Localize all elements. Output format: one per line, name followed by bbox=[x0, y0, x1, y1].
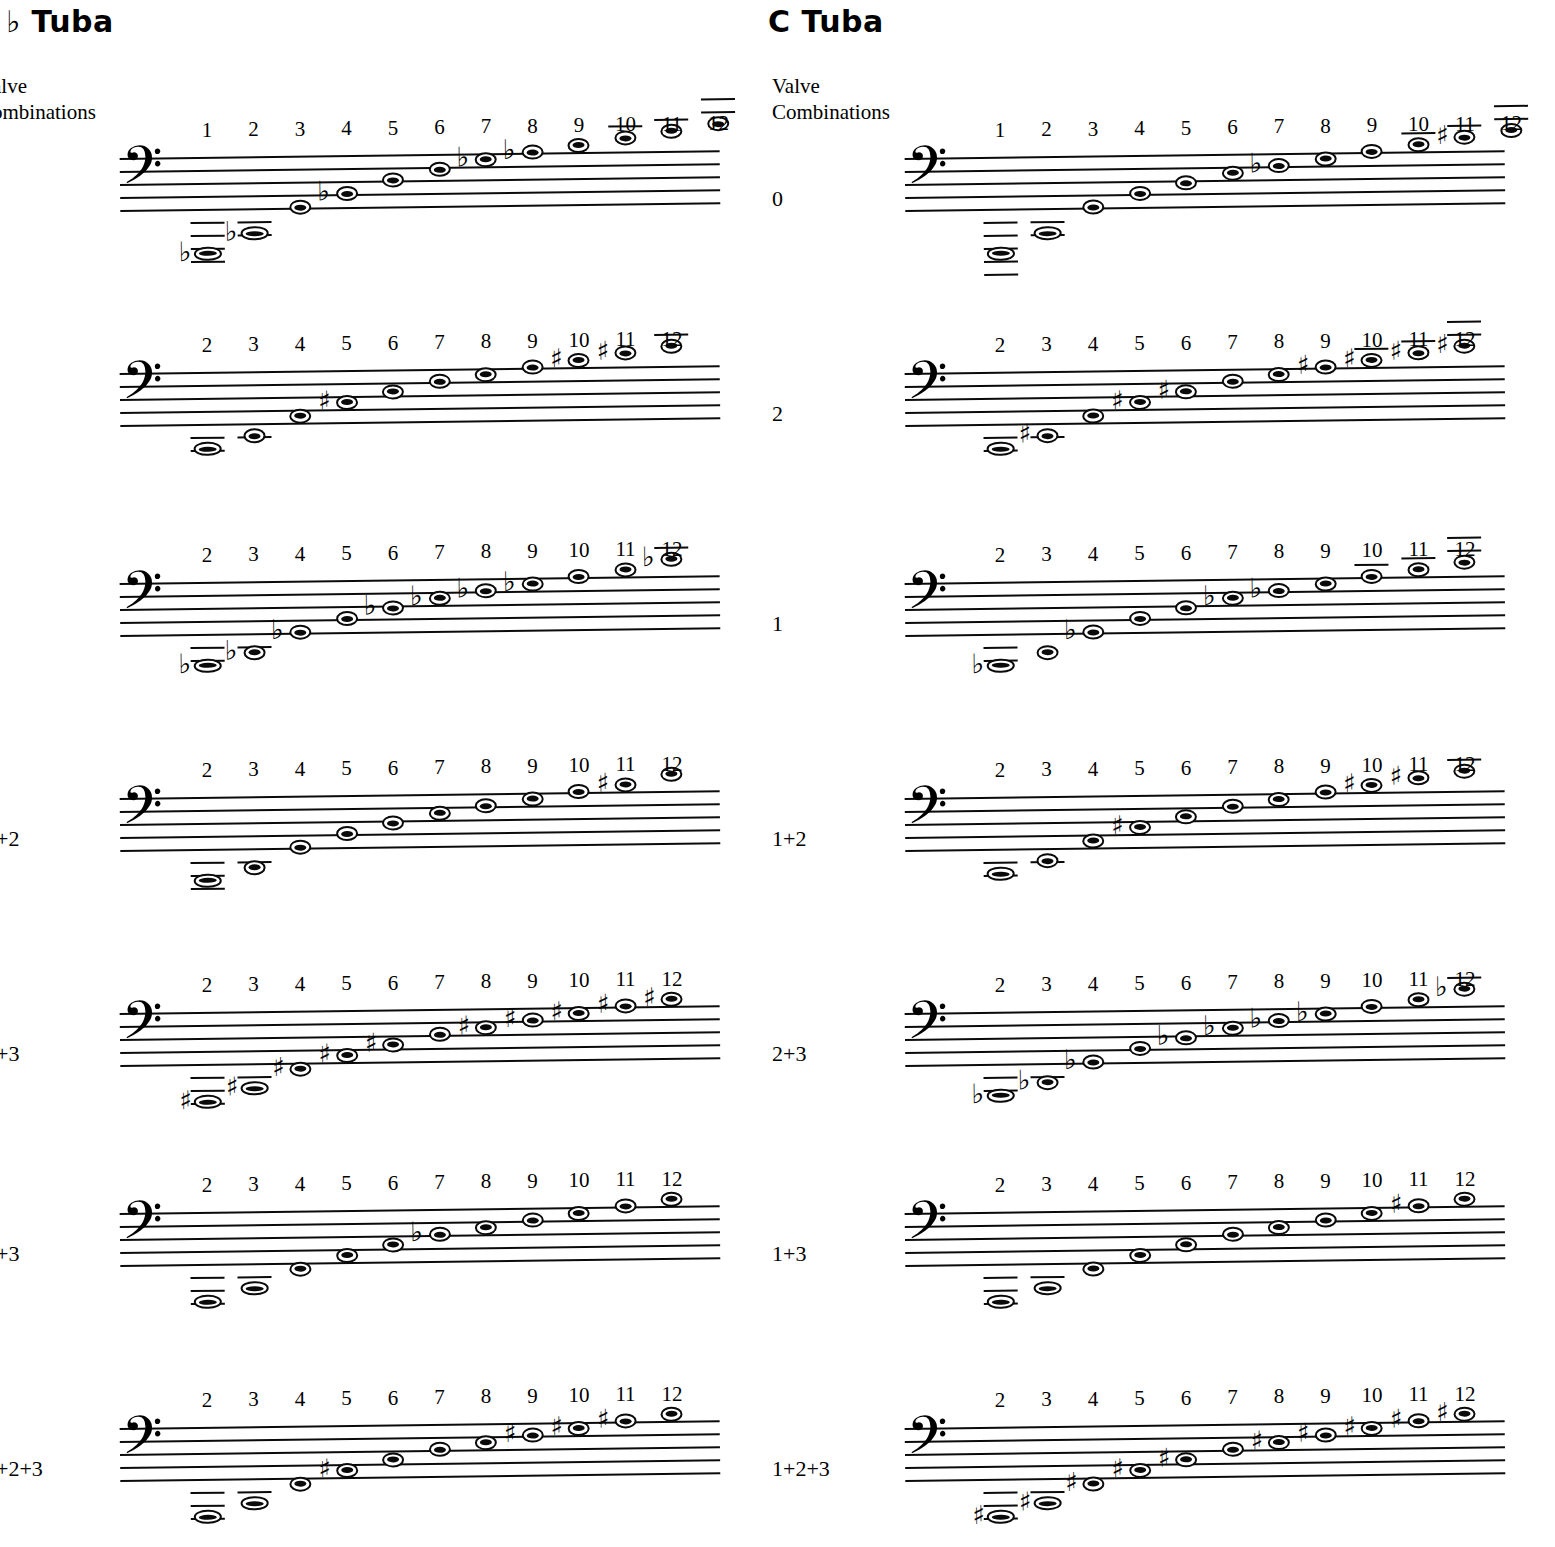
notehead-icon bbox=[1128, 819, 1150, 834]
partial-number: 8 bbox=[1266, 329, 1292, 354]
notehead-icon bbox=[475, 583, 497, 598]
partial-number: 7 bbox=[473, 114, 499, 139]
notehead-icon bbox=[1175, 1237, 1197, 1252]
sharp-accidental-icon: ♯ bbox=[1292, 1420, 1314, 1446]
partial-number: 12 bbox=[659, 1167, 685, 1192]
sharp-accidental-icon: ♯ bbox=[267, 1053, 289, 1079]
ledger-line bbox=[191, 1505, 225, 1507]
partial-number: 8 bbox=[1266, 754, 1292, 779]
notehead-icon bbox=[1221, 1020, 1243, 1035]
notehead-icon bbox=[475, 1220, 497, 1235]
notehead-icon bbox=[428, 162, 450, 177]
notehead-icon bbox=[1221, 374, 1243, 389]
notehead-icon bbox=[428, 374, 450, 389]
partial-number: 9 bbox=[1313, 539, 1339, 564]
ledger-line bbox=[191, 261, 225, 263]
partial-number: 11 bbox=[1406, 537, 1432, 562]
partial-number: 12 bbox=[1452, 537, 1478, 562]
sharp-accidental-icon: ♯ bbox=[1246, 1427, 1268, 1453]
partial-number: 6 bbox=[1173, 541, 1199, 566]
notehead-icon bbox=[1221, 1442, 1243, 1457]
staff-line bbox=[120, 1057, 720, 1067]
flat-accidental-icon: ♭ bbox=[1152, 1022, 1174, 1049]
staff-line bbox=[120, 1446, 720, 1456]
notehead-icon bbox=[987, 246, 1015, 260]
notehead-icon bbox=[987, 1510, 1015, 1524]
bass-clef-icon: 𝄢 bbox=[906, 994, 948, 1059]
partial-number: 2 bbox=[194, 973, 220, 998]
partial-number: 12 bbox=[1452, 1167, 1478, 1192]
staff-line bbox=[120, 176, 720, 186]
flat-accidental-icon: ♭ bbox=[405, 1218, 427, 1245]
staff-line bbox=[120, 1018, 720, 1028]
staff-line bbox=[905, 189, 1505, 199]
notehead-icon bbox=[1453, 1191, 1475, 1206]
partial-number: 5 bbox=[1127, 331, 1153, 356]
valve-combinations-heading-c-tuba: Valve Combinations bbox=[772, 74, 890, 125]
staff-line bbox=[905, 163, 1505, 173]
ledger-line bbox=[1354, 564, 1388, 566]
partial-number: 11 bbox=[1406, 327, 1432, 352]
notehead-icon bbox=[1128, 394, 1150, 409]
notehead-icon bbox=[240, 226, 268, 240]
partial-number: 6 bbox=[380, 331, 406, 356]
staff: 𝄢♯♯♯♯♯♯♯♯♯♯ bbox=[120, 1005, 721, 1067]
notehead-icon bbox=[336, 611, 358, 626]
notehead-icon bbox=[1082, 1476, 1104, 1491]
sharp-accidental-icon: ♯ bbox=[313, 387, 335, 413]
ledger-line bbox=[190, 862, 224, 864]
notehead-icon bbox=[987, 867, 1015, 881]
partial-number: 8 bbox=[1266, 539, 1292, 564]
partial-number: 7 bbox=[427, 970, 453, 995]
notehead-icon bbox=[336, 1462, 358, 1477]
notehead-icon bbox=[1033, 226, 1061, 240]
notehead-icon bbox=[1361, 569, 1383, 584]
staff: 𝄢♯ bbox=[120, 790, 721, 852]
notehead-icon bbox=[1129, 1247, 1151, 1262]
notehead-icon bbox=[1314, 784, 1336, 799]
sharp-accidental-icon: ♯ bbox=[1153, 1444, 1175, 1470]
staff: 𝄢♯♯♯♯♯♯♯♯♯♯ bbox=[905, 1420, 1506, 1482]
staff-line bbox=[905, 417, 1505, 427]
flat-accidental-icon: ♭ bbox=[266, 616, 288, 643]
sharp-accidental-icon: ♯ bbox=[592, 991, 614, 1017]
sharp-accidental-icon: ♯ bbox=[1385, 1190, 1407, 1216]
partial-number: 3 bbox=[241, 757, 267, 782]
ledger-line bbox=[1447, 320, 1481, 322]
partial-number: 12 bbox=[659, 327, 685, 352]
notehead-icon bbox=[289, 1476, 311, 1491]
notehead-icon bbox=[289, 408, 311, 423]
ledger-line bbox=[983, 1277, 1017, 1279]
notehead-icon bbox=[428, 805, 450, 820]
bass-clef-icon: 𝄢 bbox=[121, 1194, 163, 1259]
flat-accidental-icon: ♭ bbox=[405, 581, 427, 608]
sharp-accidental-icon: ♯ bbox=[638, 983, 660, 1009]
partial-number: 7 bbox=[1220, 330, 1246, 355]
notehead-icon bbox=[1082, 1261, 1104, 1276]
notehead-icon bbox=[521, 1212, 543, 1227]
staff: 𝄢♭♭♭♭♭♭♭♭ bbox=[120, 575, 721, 637]
ledger-line bbox=[190, 437, 224, 439]
bass-clef-icon: 𝄢 bbox=[121, 994, 163, 1059]
notehead-icon bbox=[521, 1012, 543, 1027]
staff-line bbox=[905, 790, 1505, 800]
flat-accidental-icon: ♭ bbox=[1059, 616, 1081, 643]
notehead-icon bbox=[1361, 999, 1383, 1014]
partial-number: 2 bbox=[194, 543, 220, 568]
partial-number: 2 bbox=[194, 1388, 220, 1413]
staff-line bbox=[905, 1472, 1505, 1482]
valve-combination-label: 1 bbox=[772, 611, 783, 637]
staff-line bbox=[905, 1244, 1505, 1254]
flat-accidental-icon: ♭ bbox=[967, 649, 989, 676]
partial-number: 10 bbox=[566, 538, 592, 563]
staff-line bbox=[120, 1031, 720, 1041]
partial-number: 11 bbox=[613, 967, 639, 992]
partial-number: 3 bbox=[1034, 1387, 1060, 1412]
notehead-icon bbox=[1036, 1075, 1058, 1090]
bass-clef-icon: 𝄢 bbox=[906, 564, 948, 629]
partial-number: 11 bbox=[1452, 112, 1478, 137]
staff-line bbox=[120, 391, 720, 401]
notehead-icon bbox=[987, 442, 1015, 456]
notehead-icon bbox=[1361, 1420, 1383, 1435]
notehead-icon bbox=[475, 1020, 497, 1035]
